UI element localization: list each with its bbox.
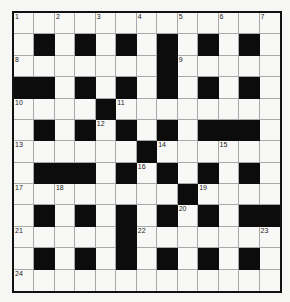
crossword-cell[interactable] bbox=[239, 184, 259, 205]
crossword-cell[interactable] bbox=[137, 184, 157, 205]
crossword-cell[interactable] bbox=[34, 227, 54, 248]
crossword-cell[interactable] bbox=[75, 270, 95, 291]
crossword-cell[interactable]: 23 bbox=[260, 227, 280, 248]
crossword-cell[interactable]: 12 bbox=[96, 120, 116, 141]
crossword-cell[interactable]: 6 bbox=[219, 13, 239, 34]
crossword-cell[interactable] bbox=[34, 270, 54, 291]
crossword-cell[interactable] bbox=[219, 34, 239, 55]
crossword-cell[interactable] bbox=[55, 227, 75, 248]
crossword-cell[interactable] bbox=[260, 99, 280, 120]
crossword-cell[interactable] bbox=[260, 34, 280, 55]
crossword-cell[interactable] bbox=[75, 99, 95, 120]
crossword-cell[interactable] bbox=[55, 56, 75, 77]
crossword-cell[interactable] bbox=[55, 270, 75, 291]
crossword-cell[interactable] bbox=[260, 248, 280, 269]
crossword-cell[interactable] bbox=[116, 13, 136, 34]
crossword-cell[interactable] bbox=[198, 270, 218, 291]
crossword-cell[interactable]: 7 bbox=[260, 13, 280, 34]
crossword-cell[interactable]: 14 bbox=[157, 141, 177, 162]
crossword-cell[interactable] bbox=[178, 77, 198, 98]
crossword-cell[interactable] bbox=[137, 120, 157, 141]
crossword-cell[interactable] bbox=[219, 99, 239, 120]
crossword-cell[interactable] bbox=[219, 205, 239, 226]
crossword-cell[interactable] bbox=[34, 13, 54, 34]
crossword-cell[interactable] bbox=[239, 141, 259, 162]
crossword-cell[interactable] bbox=[137, 205, 157, 226]
crossword-cell[interactable] bbox=[239, 13, 259, 34]
crossword-cell[interactable] bbox=[198, 141, 218, 162]
crossword-cell[interactable] bbox=[239, 270, 259, 291]
crossword-cell[interactable]: 1 bbox=[14, 13, 34, 34]
crossword-cell[interactable] bbox=[157, 227, 177, 248]
crossword-cell[interactable]: 15 bbox=[219, 141, 239, 162]
crossword-cell[interactable] bbox=[198, 99, 218, 120]
crossword-cell[interactable] bbox=[219, 270, 239, 291]
crossword-cell[interactable] bbox=[14, 34, 34, 55]
crossword-cell[interactable]: 19 bbox=[198, 184, 218, 205]
crossword-cell[interactable] bbox=[219, 184, 239, 205]
crossword-cell[interactable] bbox=[239, 99, 259, 120]
crossword-cell[interactable] bbox=[178, 141, 198, 162]
crossword-cell[interactable] bbox=[14, 120, 34, 141]
crossword-cell[interactable] bbox=[178, 34, 198, 55]
crossword-cell[interactable]: 8 bbox=[14, 56, 34, 77]
crossword-cell[interactable] bbox=[198, 227, 218, 248]
crossword-cell[interactable] bbox=[55, 34, 75, 55]
crossword-cell[interactable] bbox=[75, 184, 95, 205]
crossword-cell[interactable] bbox=[55, 120, 75, 141]
crossword-cell[interactable] bbox=[260, 163, 280, 184]
crossword-cell[interactable] bbox=[96, 227, 116, 248]
crossword-cell[interactable] bbox=[137, 248, 157, 269]
crossword-cell[interactable] bbox=[96, 205, 116, 226]
crossword-cell[interactable] bbox=[219, 163, 239, 184]
crossword-cell[interactable] bbox=[14, 205, 34, 226]
crossword-cell[interactable] bbox=[75, 13, 95, 34]
crossword-cell[interactable]: 17 bbox=[14, 184, 34, 205]
crossword-cell[interactable] bbox=[75, 141, 95, 162]
crossword-cell[interactable] bbox=[116, 141, 136, 162]
crossword-cell[interactable] bbox=[260, 77, 280, 98]
crossword-cell[interactable] bbox=[178, 163, 198, 184]
crossword-cell[interactable] bbox=[157, 99, 177, 120]
crossword-cell[interactable] bbox=[137, 56, 157, 77]
crossword-cell[interactable] bbox=[116, 184, 136, 205]
crossword-cell[interactable] bbox=[260, 141, 280, 162]
crossword-cell[interactable]: 3 bbox=[96, 13, 116, 34]
crossword-cell[interactable]: 21 bbox=[14, 227, 34, 248]
crossword-cell[interactable] bbox=[34, 56, 54, 77]
crossword-cell[interactable] bbox=[55, 205, 75, 226]
crossword-cell[interactable] bbox=[260, 56, 280, 77]
crossword-cell[interactable]: 18 bbox=[55, 184, 75, 205]
crossword-cell[interactable] bbox=[178, 248, 198, 269]
crossword-cell[interactable] bbox=[239, 56, 259, 77]
crossword-cell[interactable]: 9 bbox=[178, 56, 198, 77]
crossword-cell[interactable] bbox=[178, 99, 198, 120]
crossword-cell[interactable] bbox=[260, 120, 280, 141]
crossword-cell[interactable]: 24 bbox=[14, 270, 34, 291]
crossword-cell[interactable] bbox=[55, 77, 75, 98]
crossword-cell[interactable] bbox=[178, 227, 198, 248]
crossword-cell[interactable]: 10 bbox=[14, 99, 34, 120]
crossword-cell[interactable] bbox=[219, 248, 239, 269]
crossword-cell[interactable] bbox=[14, 248, 34, 269]
crossword-cell[interactable] bbox=[157, 270, 177, 291]
crossword-cell[interactable] bbox=[75, 227, 95, 248]
crossword-cell[interactable] bbox=[34, 141, 54, 162]
crossword-cell[interactable] bbox=[198, 13, 218, 34]
crossword-cell[interactable] bbox=[239, 227, 259, 248]
crossword-cell[interactable] bbox=[116, 270, 136, 291]
crossword-cell[interactable] bbox=[260, 184, 280, 205]
crossword-cell[interactable] bbox=[75, 56, 95, 77]
crossword-cell[interactable] bbox=[14, 163, 34, 184]
crossword-cell[interactable] bbox=[96, 248, 116, 269]
crossword-cell[interactable] bbox=[96, 141, 116, 162]
crossword-cell[interactable] bbox=[157, 13, 177, 34]
crossword-cell[interactable] bbox=[34, 184, 54, 205]
crossword-cell[interactable] bbox=[96, 77, 116, 98]
crossword-cell[interactable]: 16 bbox=[137, 163, 157, 184]
crossword-cell[interactable] bbox=[55, 99, 75, 120]
crossword-cell[interactable] bbox=[137, 77, 157, 98]
crossword-cell[interactable] bbox=[137, 99, 157, 120]
crossword-cell[interactable]: 20 bbox=[178, 205, 198, 226]
crossword-cell[interactable]: 4 bbox=[137, 13, 157, 34]
